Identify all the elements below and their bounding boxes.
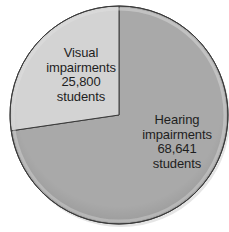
label-hearing-unit: students — [142, 157, 212, 172]
label-hearing: Hearing impairments 68,641 students — [142, 113, 212, 171]
label-hearing-line2: impairments — [142, 128, 212, 143]
label-visual-value: 25,800 — [46, 75, 116, 90]
label-visual-line2: impairments — [46, 61, 116, 76]
label-visual-line1: Visual — [46, 46, 116, 61]
label-hearing-value: 68,641 — [142, 142, 212, 157]
label-visual-unit: students — [46, 90, 116, 105]
label-hearing-line1: Hearing — [142, 113, 212, 128]
label-visual: Visual impairments 25,800 students — [46, 46, 116, 104]
